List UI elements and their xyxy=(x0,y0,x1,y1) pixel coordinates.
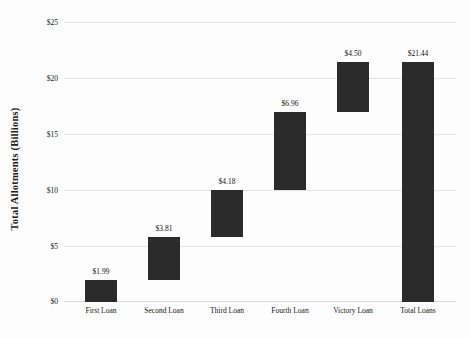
x-tick-label-first-loan: First Loan xyxy=(85,306,116,315)
y-tick-label-25: $25 xyxy=(20,18,58,27)
y-tick-label-10: $10 xyxy=(20,186,58,195)
y-axis-title: Total Allotments (Billions) xyxy=(0,0,28,338)
x-tick-label-fourth-loan: Fourth Loan xyxy=(271,306,308,315)
x-tick-label-total-loans: Total Loans xyxy=(400,306,436,315)
x-axis-ticks: First Loan Second Loan Third Loan Fourth… xyxy=(64,306,456,326)
y-tick-label-20: $20 xyxy=(20,74,58,83)
y-tick-label-5: $5 xyxy=(20,242,58,251)
y-tick-label-0: $0 xyxy=(20,297,58,306)
y-tick-label-15: $15 xyxy=(20,130,58,139)
x-tick-label-victory-loan: Victory Loan xyxy=(333,306,373,315)
x-tick-label-second-loan: Second Loan xyxy=(144,306,183,315)
y-axis-ticks: $25 $20 $15 $10 $5 $0 xyxy=(64,22,456,302)
waterfall-chart: Total Allotments (Billions) $1.99 $3.81 … xyxy=(0,0,470,338)
x-tick-label-third-loan: Third Loan xyxy=(210,306,244,315)
